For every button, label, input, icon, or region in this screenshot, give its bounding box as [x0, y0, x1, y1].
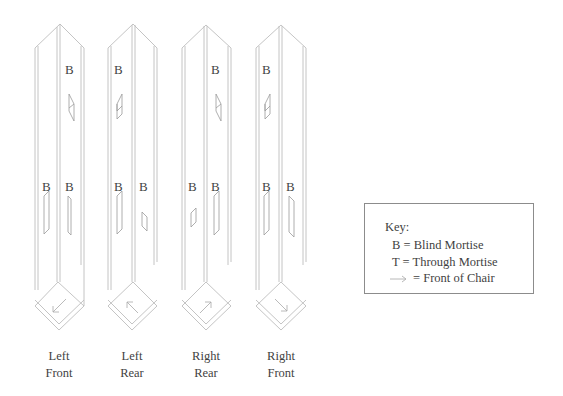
chair-leg-diagram: B B B B B B [0, 0, 563, 396]
front-arrow-icon [200, 302, 211, 313]
label-line: Left [24, 348, 94, 365]
mortise-letter: B [42, 179, 51, 194]
mortise-icon [117, 94, 122, 111]
mortise-letter: B [262, 179, 271, 194]
post-label-left-front: Left Front [24, 348, 94, 382]
mortise-icon [265, 94, 270, 111]
key-title: Key: [385, 220, 409, 235]
key-text: = Through Mortise [403, 255, 498, 269]
label-line: Rear [97, 365, 167, 382]
front-arrow-icon [127, 302, 138, 313]
mortise-icon [44, 191, 49, 234]
mortise-icon [264, 191, 269, 235]
mortise-letter: B [65, 179, 74, 194]
front-arrow-icon [275, 299, 287, 311]
mortise-letter: B [286, 179, 295, 194]
key-symbol: T [392, 255, 399, 269]
mortise-icon [117, 191, 122, 234]
mortise-icon [214, 191, 219, 235]
label-line: Front [24, 365, 94, 382]
mortise-icon [68, 196, 71, 235]
mortise-letter: B [139, 179, 148, 194]
label-line: Rear [171, 365, 241, 382]
post-right-rear [182, 25, 231, 330]
post-label-right-front: Right Front [246, 348, 316, 382]
key-row-through: T = Through Mortise [392, 255, 498, 270]
mortise-letter: B [211, 179, 220, 194]
key-text: = Blind Mortise [403, 238, 483, 252]
post-label-left-rear: Left Rear [97, 348, 167, 382]
legend-key: Key: B = Blind Mortise T = Through Morti… [364, 203, 534, 294]
label-line: Left [97, 348, 167, 365]
label-line: Right [246, 348, 316, 365]
post-left-front [35, 24, 84, 330]
key-row-front: = Front of Chair [389, 271, 495, 286]
mortise-letter: B [188, 179, 197, 194]
key-text: = Front of Chair [413, 271, 495, 285]
post-label-right-rear: Right Rear [171, 348, 241, 382]
mortise-letter: B [262, 62, 271, 77]
mortise-letter: B [211, 62, 220, 77]
mortise-icon [142, 212, 147, 231]
mortise-letter: B [114, 179, 123, 194]
front-arrow-icon [53, 299, 66, 312]
arrow-icon [389, 274, 411, 284]
label-line: Front [246, 365, 316, 382]
key-row-blind: B = Blind Mortise [392, 238, 483, 253]
label-line: Right [171, 348, 241, 365]
mortise-icon [191, 208, 196, 227]
mortise-letter: B [65, 62, 74, 77]
key-symbol: B [392, 238, 400, 252]
mortise-letter: B [114, 62, 123, 77]
mortise-icon [289, 196, 294, 237]
